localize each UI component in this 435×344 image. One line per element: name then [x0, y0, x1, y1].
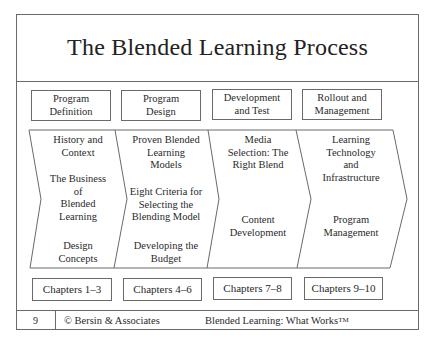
- chevron-4-topics: Learning Technology and Infrastructure P…: [306, 134, 396, 264]
- topic-line: Models: [150, 159, 182, 170]
- topic-line: Media: [245, 134, 272, 145]
- chapter-box-4: Chapters 9–10: [304, 277, 383, 300]
- topic-program-management: Program Management: [306, 214, 396, 239]
- book-title-text: Blended Learning: What Works: [205, 315, 338, 326]
- chapter-label: Chapters 4–6: [133, 283, 191, 296]
- topic-proven-blended-learning-models: Proven Blended Learning Models: [120, 134, 212, 172]
- topic-line: Development: [230, 227, 287, 238]
- topic-line: Concepts: [58, 253, 97, 264]
- topic-media-selection: Media Selection: The Right Blend: [214, 134, 302, 172]
- chapter-box-3: Chapters 7–8: [213, 277, 292, 300]
- chapter-label: Chapters 1–3: [43, 283, 101, 296]
- topic-line: Learning: [147, 147, 185, 158]
- topic-learning-technology-infrastructure: Learning Technology and Infrastructure: [306, 134, 396, 184]
- topic-line: Proven Blended: [132, 134, 199, 145]
- topic-line: Budget: [151, 253, 181, 264]
- topic-line: of: [74, 186, 83, 197]
- chevron-3-topics: Media Selection: The Right Blend Content…: [214, 134, 302, 264]
- chapter-label: Chapters 7–8: [223, 282, 281, 295]
- chapter-box-1: Chapters 1–3: [32, 278, 112, 301]
- topic-line: History and: [53, 134, 102, 145]
- topic-line: The Business: [50, 173, 106, 184]
- topic-developing-the-budget: Developing the Budget: [120, 240, 212, 265]
- page-number: 9: [16, 310, 55, 330]
- topic-line: Right Blend: [232, 159, 283, 170]
- topic-line: Selecting the: [139, 199, 194, 210]
- chevron-1-topics: History and Context The Business of Blen…: [36, 134, 120, 264]
- topic-line: Developing the: [134, 240, 198, 251]
- topic-design-concepts: Design Concepts: [36, 240, 120, 265]
- topic-line: Context: [61, 147, 94, 158]
- topic-history-and-context: History and Context: [36, 134, 120, 159]
- chapter-label: Chapters 9–10: [312, 282, 376, 295]
- topic-line: Learning: [332, 134, 370, 145]
- footer-separator: [55, 310, 56, 330]
- topic-line: Learning: [59, 211, 97, 222]
- chevron-2-topics: Proven Blended Learning Models Eight Cri…: [120, 134, 212, 264]
- topic-line: Blending Model: [132, 211, 201, 222]
- topic-line: Design: [63, 240, 93, 251]
- topic-content-development: Content Development: [214, 214, 302, 239]
- topic-line: Blended: [61, 198, 96, 209]
- topic-line: Eight Criteria for: [130, 186, 202, 197]
- topic-line: Infrastructure: [322, 172, 379, 183]
- topic-line: Management: [324, 227, 379, 238]
- topic-line: Program: [333, 214, 369, 225]
- topic-line: Content: [241, 214, 274, 225]
- book-title: Blended Learning: What WorksTM: [205, 310, 349, 330]
- topic-line: Selection: The: [228, 147, 289, 158]
- topic-eight-criteria: Eight Criteria for Selecting the Blendin…: [120, 186, 212, 224]
- topic-line: Technology: [326, 147, 375, 158]
- topic-business-of-blended-learning: The Business of Blended Learning: [36, 173, 120, 223]
- chapter-box-2: Chapters 4–6: [123, 278, 202, 301]
- topic-line: and: [343, 159, 358, 170]
- copyright-text: © Bersin & Associates: [64, 310, 160, 330]
